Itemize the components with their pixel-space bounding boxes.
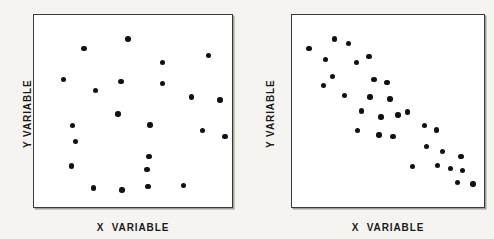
data-point <box>146 154 151 159</box>
data-point <box>448 166 453 171</box>
right-plot-area <box>291 14 485 208</box>
data-point <box>355 128 360 133</box>
data-point <box>217 97 222 102</box>
data-point <box>115 111 120 116</box>
right-panel-y-axis-label: Y VARIABLE <box>265 79 276 148</box>
data-point <box>91 185 96 190</box>
data-point <box>118 79 123 84</box>
data-point <box>410 164 415 169</box>
data-point <box>189 94 194 99</box>
data-point <box>434 127 439 132</box>
right-scatter-panel: Y VARIABLE X VARIABLE <box>247 0 494 239</box>
data-point <box>119 187 124 192</box>
left-plot-area <box>33 14 233 208</box>
data-point <box>321 83 326 88</box>
data-point <box>424 144 429 149</box>
left-scatter-panel: Y VARIABLE X VARIABLE <box>0 0 247 239</box>
data-point <box>384 80 389 85</box>
data-point <box>330 74 335 79</box>
data-point <box>144 167 149 172</box>
data-point <box>390 134 395 139</box>
left-data-points <box>34 15 232 207</box>
left-panel-y-axis-label: Y VARIABLE <box>22 79 33 148</box>
data-point <box>395 112 400 117</box>
data-point <box>323 57 328 62</box>
data-point <box>435 163 440 168</box>
data-point <box>458 154 463 159</box>
data-point <box>354 60 359 65</box>
data-point <box>366 54 371 59</box>
data-point <box>371 77 376 82</box>
data-point <box>359 108 364 113</box>
data-point <box>378 114 383 119</box>
data-point <box>342 93 347 98</box>
right-data-points <box>292 15 484 207</box>
data-point <box>160 60 165 65</box>
data-point <box>422 123 427 128</box>
scatterplot-figure: Y VARIABLE X VARIABLE Y VARIABLE X VARIA… <box>0 0 494 239</box>
data-point <box>81 46 86 51</box>
data-point <box>222 134 227 139</box>
data-point <box>367 94 372 99</box>
data-point <box>376 132 381 137</box>
data-point <box>147 122 152 127</box>
data-point <box>387 96 392 101</box>
data-point <box>200 128 205 133</box>
data-point <box>69 163 74 168</box>
data-point <box>440 149 445 154</box>
data-point <box>125 36 130 41</box>
left-panel-x-axis-label: X VARIABLE <box>33 222 233 233</box>
data-point <box>181 183 186 188</box>
data-point <box>93 88 98 93</box>
data-point <box>145 184 150 189</box>
data-point <box>160 81 165 86</box>
data-point <box>73 139 78 144</box>
data-point <box>460 168 465 173</box>
data-point <box>70 123 75 128</box>
data-point <box>206 53 211 58</box>
data-point <box>470 181 475 186</box>
data-point <box>405 109 410 114</box>
right-panel-x-axis-label: X VARIABLE <box>291 222 485 233</box>
data-point <box>306 46 311 51</box>
data-point <box>61 77 66 82</box>
data-point <box>455 180 460 185</box>
data-point <box>332 36 337 41</box>
data-point <box>346 41 351 46</box>
